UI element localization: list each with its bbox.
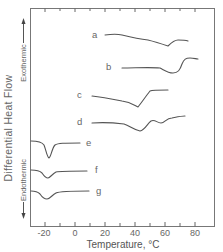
curves: a b c d e f g bbox=[31, 29, 198, 199]
x-tick-labels: -20 0 20 40 60 80 bbox=[37, 228, 200, 238]
dsc-thermogram-chart: -20 0 20 40 60 80 Temperature, °C Differ… bbox=[0, 0, 223, 252]
curve-f bbox=[31, 170, 87, 178]
exothermic-label: Exothermic bbox=[19, 44, 28, 82]
x-tick-label: 20 bbox=[100, 228, 110, 238]
curve-g bbox=[31, 191, 89, 199]
curve-c bbox=[92, 90, 168, 107]
curve-label-e: e bbox=[86, 137, 91, 148]
x-axis-ticks bbox=[45, 222, 195, 227]
x-axis-title: Temperature, °C bbox=[87, 239, 160, 250]
x-tick-label: 60 bbox=[160, 228, 170, 238]
x-tick-label: 80 bbox=[190, 228, 200, 238]
top-axis-ticks bbox=[45, 9, 195, 13]
endothermic-label: Endothermic bbox=[19, 159, 28, 201]
curve-e bbox=[31, 141, 80, 158]
arrow-down-icon bbox=[22, 213, 26, 219]
curve-label-d: d bbox=[77, 116, 82, 127]
endothermic-indicator: Endothermic bbox=[19, 159, 28, 219]
curve-label-b: b bbox=[106, 61, 111, 72]
x-tick-label: 0 bbox=[72, 228, 77, 238]
curve-a bbox=[105, 34, 188, 46]
y-axis-title: Differential Heat Flow bbox=[2, 74, 14, 181]
x-tick-label: -20 bbox=[37, 228, 50, 238]
x-tick-label: 40 bbox=[130, 228, 140, 238]
curve-label-a: a bbox=[92, 29, 98, 40]
curve-b bbox=[122, 58, 198, 73]
curve-d bbox=[92, 116, 185, 131]
curve-label-c: c bbox=[77, 89, 82, 100]
curve-label-g: g bbox=[96, 185, 101, 196]
arrow-up-icon bbox=[22, 18, 26, 24]
exothermic-indicator: Exothermic bbox=[19, 18, 28, 82]
curve-label-f: f bbox=[95, 164, 98, 175]
